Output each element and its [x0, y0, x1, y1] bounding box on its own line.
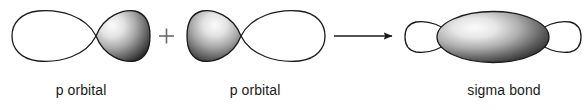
sigma-bond-overlap-lobe: [437, 12, 549, 63]
caption-p-orbital-left: p orbital: [56, 82, 107, 98]
orbital-diagram: p orbital p orbital sigma bond: [0, 0, 588, 110]
p-orbital-right: [187, 11, 325, 62]
plus-operator-icon: [159, 29, 174, 44]
sigma-bond: [405, 12, 581, 63]
caption-sigma-bond: sigma bond: [467, 82, 540, 98]
p-orbital-left: [12, 11, 150, 62]
p-orbital-left-white-lobe: [12, 11, 96, 62]
caption-p-orbital-right: p orbital: [230, 82, 281, 98]
p-orbital-right-white-lobe: [241, 11, 325, 62]
p-orbital-right-shaded-lobe: [187, 11, 241, 62]
p-orbital-left-shaded-lobe: [96, 11, 150, 62]
